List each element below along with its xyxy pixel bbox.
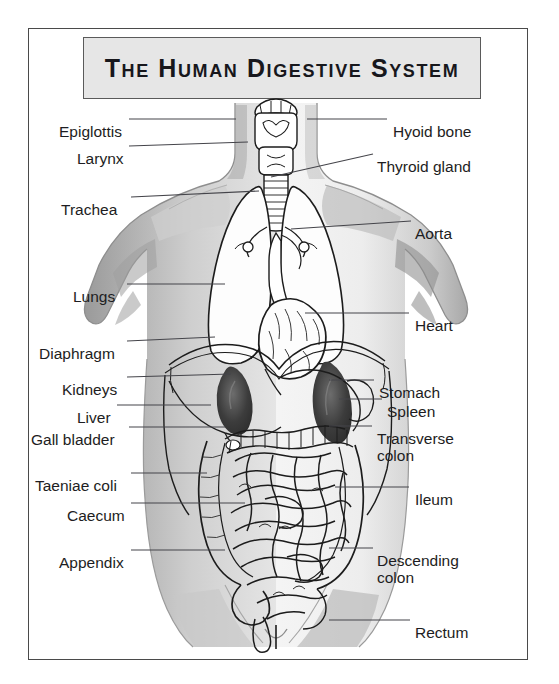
label-ileum: Ileum	[415, 491, 453, 508]
label-larynx: Larynx	[77, 150, 124, 167]
label-kidneys: Kidneys	[62, 381, 117, 398]
figure-frame: The Human Digestive System	[28, 28, 528, 660]
label-aorta: Aorta	[415, 225, 452, 242]
label-epiglottis: Epiglottis	[59, 123, 122, 140]
label-transverse-colon: Transverse colon	[377, 430, 454, 464]
label-trachea: Trachea	[61, 201, 117, 218]
label-gall-bladder: Gall bladder	[31, 431, 115, 448]
label-heart: Heart	[415, 317, 453, 334]
label-caecum: Caecum	[67, 507, 125, 524]
label-spleen: Spleen	[387, 403, 435, 420]
label-liver: Liver	[77, 409, 111, 426]
label-lungs: Lungs	[73, 288, 115, 305]
label-thyroid-gland: Thyroid gland	[377, 158, 471, 175]
label-hyoid-bone: Hyoid bone	[393, 123, 471, 140]
labels-layer: EpiglottisLarynxTracheaLungsDiaphragmKid…	[29, 29, 529, 661]
label-diaphragm: Diaphragm	[39, 345, 115, 362]
label-taeniae-coli: Taeniae coli	[35, 477, 117, 494]
label-rectum: Rectum	[415, 624, 468, 641]
label-appendix: Appendix	[59, 554, 124, 571]
label-descending-colon: Descending colon	[377, 552, 459, 586]
label-stomach: Stomach	[379, 384, 440, 401]
